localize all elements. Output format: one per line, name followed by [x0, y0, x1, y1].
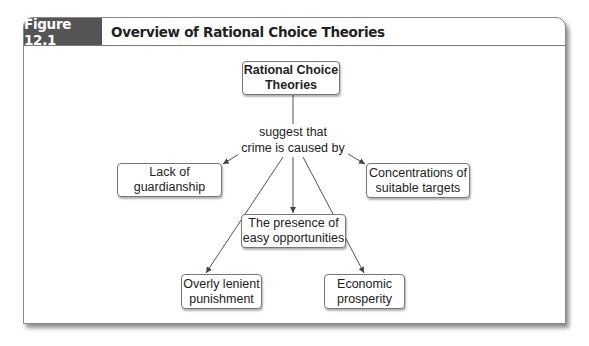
node-lack-of-guardianship: Lack ofguardianship	[117, 163, 222, 197]
node-easy-opportunities: The presence ofeasy opportunities	[241, 214, 346, 248]
connector-text: suggest that	[238, 124, 348, 140]
node-text: Concentrations of	[369, 166, 467, 181]
node-text: guardianship	[134, 180, 206, 195]
node-overly-lenient-punishment: Overly lenientpunishment	[181, 274, 262, 309]
node-text: Overly lenient	[183, 277, 259, 292]
connector-lines	[0, 0, 589, 346]
connector-text: crime is caused by	[238, 140, 348, 156]
node-text: Theories	[244, 78, 338, 93]
node-text: Economic	[337, 277, 392, 292]
node-concentrations-of-targets: Concentrations ofsuitable targets	[366, 163, 470, 198]
node-text: easy opportunities	[243, 231, 344, 246]
node-text: punishment	[183, 292, 259, 307]
node-economic-prosperity: Economicprosperity	[324, 274, 405, 309]
node-text: The presence of	[243, 216, 344, 231]
node-text: Rational Choice	[244, 63, 338, 78]
connector-label: suggest that crime is caused by	[238, 124, 348, 156]
node-text: prosperity	[337, 292, 392, 307]
node-text: suitable targets	[369, 181, 467, 196]
node-text: Lack of	[134, 165, 206, 180]
node-rational-choice-theories: Rational ChoiceTheories	[242, 61, 340, 95]
